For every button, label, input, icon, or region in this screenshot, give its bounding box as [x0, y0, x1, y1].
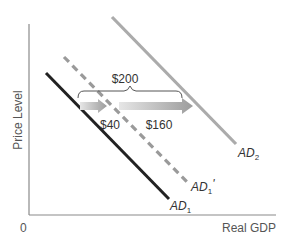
- x-axis-label: Real GDP: [222, 221, 276, 235]
- chart-container: Price Level Real GDP 0 $200 $40 $160 AD2…: [0, 0, 293, 238]
- ad1-prime-label-prime: ': [212, 177, 215, 191]
- shift-small-label: $40: [100, 118, 120, 132]
- shift-large-label: $160: [146, 118, 173, 132]
- ad2-label-main: AD: [237, 146, 255, 160]
- origin-label: 0: [20, 221, 27, 235]
- ad1-label: AD1: [169, 199, 192, 215]
- ad2-label-sub: 2: [255, 153, 260, 162]
- y-axis-label: Price Level: [11, 90, 25, 149]
- ad1-prime-label-main: AD: [190, 180, 208, 194]
- brace-total-label: $200: [112, 72, 139, 86]
- ad1-label-main: AD: [169, 199, 187, 213]
- ad1-curve: [46, 73, 169, 199]
- shift-arrow-large-icon: [119, 98, 193, 114]
- chart-svg: Price Level Real GDP 0 $200 $40 $160 AD2…: [0, 0, 293, 238]
- ad1-label-sub: 1: [187, 206, 192, 215]
- ad1-prime-label: AD1': [190, 177, 215, 196]
- ad2-label: AD2: [237, 146, 260, 162]
